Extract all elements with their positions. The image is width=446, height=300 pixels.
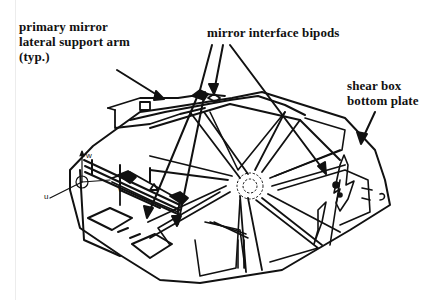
callout-line: bottom plate: [347, 93, 419, 108]
callout-lateral-support-arm: primary mirror lateral support arm (typ.…: [19, 19, 130, 64]
callout-shear-box-bottom-plate: shear box bottom plate: [347, 78, 419, 108]
lateral-support-arm-bottom: [205, 222, 248, 268]
callout-line: lateral support arm: [19, 34, 130, 49]
callout-mirror-interface-bipods: mirror interface bipods: [207, 25, 340, 40]
centre-hub: [237, 173, 263, 199]
right-slots: [362, 188, 385, 200]
callout-line: shear box: [347, 78, 419, 93]
axis-label-w: w: [86, 152, 92, 160]
axis-label-u: u: [44, 193, 48, 201]
callout-line: mirror interface bipods: [207, 25, 340, 40]
diagram-canvas: primary mirror lateral support arm (typ.…: [0, 0, 446, 300]
callout-line: (typ.): [19, 49, 130, 64]
axis-label-v: v: [118, 186, 122, 194]
callout-line: primary mirror: [19, 19, 130, 34]
